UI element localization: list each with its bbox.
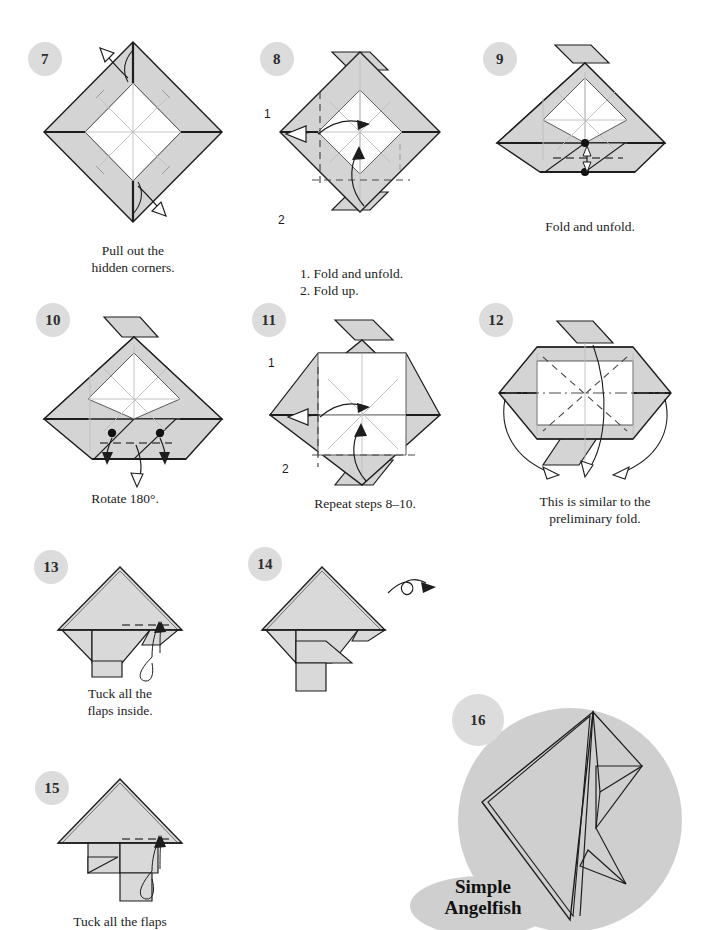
step-13-caption: Tuck all the flaps inside. <box>40 685 200 719</box>
model-title: Simple Angelfish <box>420 876 546 918</box>
step-8-sublabel-2: 2 <box>278 212 292 229</box>
step-12-caption: This is similar to the preliminary fold. <box>495 493 695 527</box>
step-10: 10 <box>0 295 240 545</box>
step-11-sublabel-1: 1 <box>268 355 282 372</box>
step-7: 7 <box>0 20 240 290</box>
model-title-line-2: Angelfish <box>444 897 521 918</box>
step-11: 11 <box>240 295 480 545</box>
step-7-caption: Pull out the hidden corners. <box>48 242 218 276</box>
step-11-figure <box>240 295 480 500</box>
step-10-caption: Rotate 180°. <box>35 490 215 507</box>
step-11-sublabel-2: 2 <box>282 461 296 478</box>
step-9-figure <box>475 20 715 220</box>
step-16: 16 Simple Angelfish <box>410 680 715 930</box>
step-9-caption: Fold and unfold. <box>495 218 685 235</box>
origami-instruction-page: 7 <box>0 0 715 930</box>
step-number-badge: 16 <box>461 703 495 737</box>
model-title-line-1: Simple <box>455 876 511 897</box>
step-12: 12 <box>475 295 715 545</box>
step-8: 8 <box>240 20 480 290</box>
step-8-figure <box>240 20 480 245</box>
step-15-caption: Tuck all the flaps <box>30 913 210 930</box>
step-13: 13 <box>0 545 240 725</box>
step-8-sublabel-1: 1 <box>264 106 278 123</box>
step-11-caption: Repeat steps 8–10. <box>270 495 460 512</box>
step-8-caption: 1. Fold and unfold. 2. Fold up. <box>300 265 480 299</box>
step-10-figure <box>0 295 240 495</box>
step-15: 15 <box>0 765 250 930</box>
step-9: 9 <box>475 20 715 280</box>
step-7-figure <box>0 20 240 240</box>
step-15-figure <box>0 765 250 910</box>
step-12-figure <box>475 295 715 495</box>
step-13-figure <box>0 545 240 680</box>
